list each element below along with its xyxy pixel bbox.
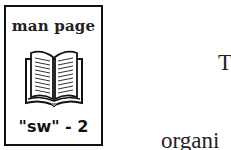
man-page-title: man page — [6, 17, 101, 35]
body-paragraph: T organi interfa Distrib — [161, 0, 231, 150]
man-page-icon-box: man page — [4, 5, 103, 146]
open-book-icon — [24, 49, 84, 111]
text-line: organi — [161, 128, 231, 150]
text-line: T — [161, 50, 231, 76]
man-page-label: "sw" - 2 — [6, 117, 101, 136]
